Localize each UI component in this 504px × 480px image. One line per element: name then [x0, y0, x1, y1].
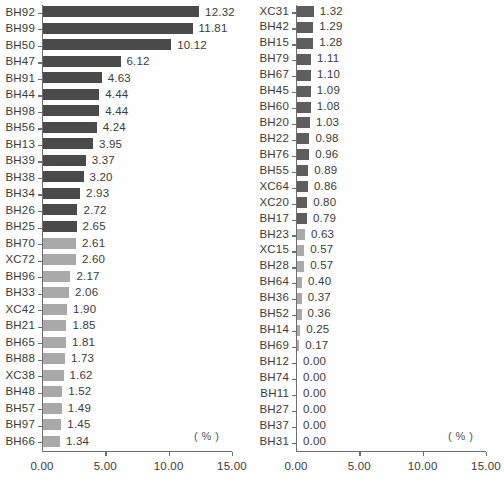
chart-page: BH9212.32BH9911.81BH5010.12BH476.12BH914… — [0, 0, 504, 480]
y-axis-tick — [38, 343, 42, 344]
bar — [297, 54, 311, 65]
category-label: BH44 — [0, 86, 35, 103]
y-axis-tick — [38, 145, 42, 146]
category-label: BH88 — [0, 350, 35, 367]
category-label: BH42 — [252, 19, 289, 35]
category-label: BH60 — [252, 99, 289, 115]
bar-value-label: 0.63 — [311, 227, 334, 243]
bar — [297, 309, 302, 320]
bar — [43, 56, 121, 67]
x-axis-tick — [486, 452, 487, 457]
bar-value-label: 3.95 — [99, 136, 122, 153]
y-axis-tick — [292, 347, 296, 348]
bar-row — [43, 400, 62, 417]
bar-value-label: 2.72 — [83, 202, 106, 219]
bar — [43, 138, 93, 149]
bar-row — [43, 185, 80, 202]
category-label: BH17 — [252, 211, 289, 227]
x-axis-tick-label: 0.00 — [12, 460, 72, 472]
bar — [297, 245, 304, 256]
bar — [43, 105, 99, 116]
bar — [297, 213, 307, 224]
bar-row — [297, 19, 313, 35]
x-axis-tick-label: 10.00 — [139, 460, 199, 472]
bar-row — [297, 227, 305, 243]
category-label: XC72 — [0, 251, 35, 268]
bar-row — [43, 317, 66, 334]
bar-value-label: 10.12 — [177, 37, 207, 54]
category-label: BH34 — [0, 185, 35, 202]
bar — [43, 419, 61, 430]
bar — [43, 122, 97, 133]
bar-row — [297, 338, 299, 354]
bar-value-label: 1.08 — [317, 99, 340, 115]
y-axis-tick — [38, 95, 42, 96]
bar-value-label: 2.61 — [82, 235, 105, 252]
bar-value-label: 3.37 — [92, 152, 115, 169]
y-axis-tick — [292, 60, 296, 61]
bar-value-label: 0.98 — [315, 131, 338, 147]
bar-value-label: 0.25 — [306, 322, 329, 338]
bar-value-label: 2.17 — [76, 268, 99, 285]
category-label: BH57 — [0, 400, 35, 417]
y-axis-tick — [38, 294, 42, 295]
y-axis-tick — [38, 261, 42, 262]
bar-row — [43, 416, 61, 433]
bar — [43, 436, 60, 447]
category-label: BH12 — [252, 354, 289, 370]
bar-value-label: 6.12 — [127, 53, 150, 70]
bar-row — [297, 83, 311, 99]
category-label: BH21 — [0, 317, 35, 334]
bar — [297, 165, 308, 176]
category-label: BH79 — [252, 51, 289, 67]
y-axis-tick — [292, 44, 296, 45]
x-axis-line — [296, 451, 486, 452]
bar — [43, 386, 62, 397]
bar-row — [43, 367, 64, 384]
bar-chart-right: XC311.32BH421.29BH151.28BH791.11BH671.10… — [252, 0, 504, 480]
y-axis-tick — [38, 310, 42, 311]
category-label: BH22 — [252, 131, 289, 147]
category-label: XC31 — [252, 4, 289, 20]
bar-row — [43, 70, 102, 87]
bar-row — [43, 301, 67, 318]
category-label: BH98 — [0, 103, 35, 120]
bar-row — [43, 251, 76, 268]
bar-row — [43, 383, 62, 400]
category-label: BH25 — [0, 218, 35, 235]
bar — [43, 271, 70, 282]
y-axis-tick — [292, 379, 296, 380]
bar-row — [43, 152, 86, 169]
y-axis-tick — [38, 327, 42, 328]
category-label: XC15 — [252, 242, 289, 258]
bar-value-label: 2.65 — [83, 218, 106, 235]
bar — [297, 70, 311, 81]
bar — [297, 261, 304, 272]
category-label: BH23 — [252, 227, 289, 243]
bar-value-label: 0.00 — [303, 402, 326, 418]
bar-value-label: 0.00 — [303, 386, 326, 402]
y-axis-tick — [38, 29, 42, 30]
bar-value-label: 1.29 — [319, 19, 342, 35]
bar-row — [43, 53, 121, 70]
bar-row — [43, 268, 70, 285]
bar — [297, 38, 313, 49]
bar-row — [43, 334, 66, 351]
y-axis-tick — [292, 156, 296, 157]
y-axis-tick — [292, 12, 296, 13]
category-label: BH65 — [0, 334, 35, 351]
bar — [43, 403, 62, 414]
category-label: BH52 — [252, 306, 289, 322]
bar — [297, 325, 300, 336]
category-label: XC42 — [0, 301, 35, 318]
bar-row — [297, 258, 304, 274]
category-label: BH38 — [0, 169, 35, 186]
bar-value-label: 0.57 — [310, 258, 333, 274]
bar-value-label: 0.80 — [313, 195, 336, 211]
bar-row — [297, 290, 302, 306]
y-axis-tick — [38, 244, 42, 245]
bar-value-label: 1.09 — [317, 83, 340, 99]
y-axis-tick — [38, 79, 42, 80]
bar-value-label: 0.57 — [310, 242, 333, 258]
y-axis-tick — [292, 28, 296, 29]
